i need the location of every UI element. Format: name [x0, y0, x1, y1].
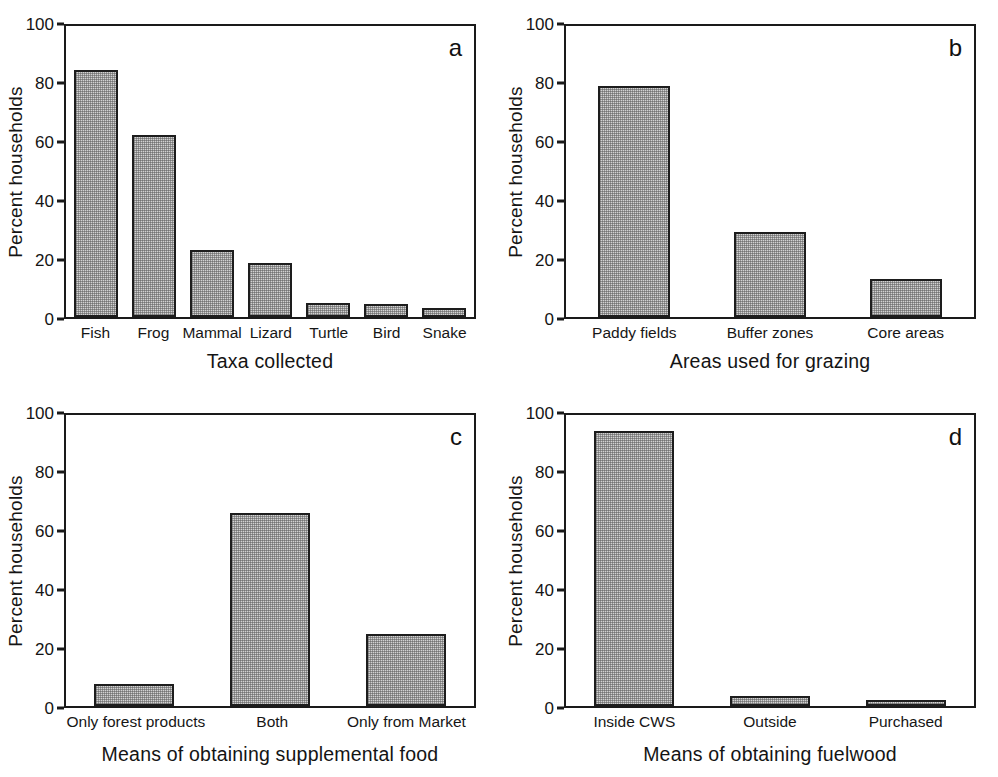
x-axis-label: Inside CWS: [567, 713, 703, 730]
panel-b: Percent households 020406080100 b Paddy …: [499, 0, 998, 389]
bar-slot: [183, 27, 241, 317]
bar-slot: [415, 27, 473, 317]
y-tick-mark: [57, 141, 64, 144]
bar: [248, 263, 292, 317]
bar: [74, 70, 118, 317]
y-tick-mark: [57, 471, 64, 474]
x-axis-label: Buffer zones: [702, 324, 838, 341]
y-tick-mark: [557, 707, 564, 710]
y-tick-label: 100: [26, 16, 57, 33]
y-tick-label: 0: [45, 700, 57, 717]
x-axis-label: Snake: [416, 324, 474, 341]
y-tick-b-0: 0: [545, 311, 564, 328]
y-tick-mark: [557, 200, 564, 203]
y-tick-label: 0: [545, 700, 557, 717]
bar-slot: [567, 416, 703, 706]
y-tick-label: 80: [535, 75, 557, 92]
bar: [94, 684, 174, 706]
y-tick-mark: [57, 530, 64, 533]
x-axis-labels-c: Only forest productsBothOnly from Market: [67, 713, 474, 730]
bar: [306, 303, 350, 317]
x-axis-label: Paddy fields: [567, 324, 703, 341]
y-tick-label: 40: [535, 582, 557, 599]
y-tick-mark: [57, 23, 64, 26]
x-axis-title-c: Means of obtaining supplemental food: [50, 743, 490, 766]
y-tick-d-40: 40: [535, 582, 564, 599]
x-axis-label: Purchased: [838, 713, 974, 730]
y-tick-label: 80: [35, 75, 57, 92]
bar-slot: [299, 27, 357, 317]
x-axis-title-b: Areas used for grazing: [564, 350, 976, 373]
bar-series-a: [67, 27, 474, 317]
y-tick-mark: [557, 141, 564, 144]
y-tick-mark: [557, 648, 564, 651]
y-tick-mark: [57, 82, 64, 85]
y-axis-ticks-b: 020406080100: [520, 24, 564, 319]
y-tick-d-0: 0: [545, 700, 564, 717]
y-tick-mark: [57, 412, 64, 415]
bar-slot: [338, 416, 474, 706]
y-tick-c-80: 80: [35, 464, 64, 481]
y-tick-mark: [57, 200, 64, 203]
x-axis-label: Bird: [358, 324, 416, 341]
y-tick-label: 40: [535, 193, 557, 210]
y-tick-label: 0: [45, 311, 57, 328]
x-axis-label: Mammal: [182, 324, 241, 341]
y-tick-c-0: 0: [45, 700, 64, 717]
x-axis-title-d: Means of obtaining fuelwood: [550, 743, 990, 766]
y-tick-mark: [57, 259, 64, 262]
bar: [866, 700, 946, 705]
bar-slot: [702, 416, 838, 706]
y-tick-mark: [557, 23, 564, 26]
bar-slot: [202, 416, 338, 706]
bar: [870, 279, 942, 317]
y-axis-ticks-d: 020406080100: [520, 413, 564, 708]
y-tick-label: 20: [535, 252, 557, 269]
y-tick-d-20: 20: [535, 641, 564, 658]
x-axis-label: Only from Market: [339, 713, 473, 730]
y-axis-ticks-a: 020406080100: [20, 24, 64, 319]
y-tick-d-60: 60: [535, 523, 564, 540]
y-tick-mark: [557, 259, 564, 262]
y-tick-label: 60: [35, 134, 57, 151]
y-tick-label: 100: [526, 405, 557, 422]
y-tick-label: 40: [35, 582, 57, 599]
x-axis-labels-a: FishFrogMammalLizardTurtleBirdSnake: [67, 324, 474, 341]
y-tick-c-40: 40: [35, 582, 64, 599]
bar-series-b: [567, 27, 974, 317]
bar: [598, 86, 670, 317]
y-tick-mark: [557, 530, 564, 533]
bar-slot: [241, 27, 299, 317]
y-tick-label: 60: [535, 523, 557, 540]
y-tick-label: 20: [35, 641, 57, 658]
bar-slot: [567, 27, 703, 317]
bar: [734, 232, 806, 316]
x-axis-labels-d: Inside CWSOutsidePurchased: [567, 713, 974, 730]
x-axis-label: Outside: [702, 713, 838, 730]
x-axis-labels-b: Paddy fieldsBuffer zonesCore areas: [567, 324, 974, 341]
bar-slot: [357, 27, 415, 317]
y-tick-label: 60: [35, 523, 57, 540]
y-tick-b-100: 100: [526, 16, 564, 33]
x-axis-label: Fish: [67, 324, 125, 341]
panel-d: Percent households 020406080100 d Inside…: [499, 389, 998, 777]
y-tick-label: 20: [535, 641, 557, 658]
y-tick-label: 40: [35, 193, 57, 210]
y-tick-mark: [557, 412, 564, 415]
y-tick-label: 80: [535, 464, 557, 481]
y-tick-label: 80: [35, 464, 57, 481]
y-tick-b-20: 20: [535, 252, 564, 269]
y-tick-label: 20: [35, 252, 57, 269]
x-axis-label: Lizard: [242, 324, 300, 341]
bar-slot: [125, 27, 183, 317]
y-tick-d-100: 100: [526, 405, 564, 422]
y-tick-c-60: 60: [35, 523, 64, 540]
y-tick-mark: [557, 471, 564, 474]
y-tick-label: 60: [535, 134, 557, 151]
panel-a: Percent households 020406080100 a FishFr…: [0, 0, 499, 389]
y-tick-mark: [57, 707, 64, 710]
y-tick-c-100: 100: [26, 405, 64, 422]
y-tick-mark: [557, 82, 564, 85]
bar-slot: [838, 416, 974, 706]
bar: [594, 431, 674, 705]
